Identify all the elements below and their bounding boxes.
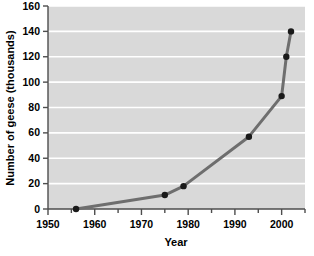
x-axis-tick-label: 1980 [177,218,201,230]
y-axis-tick-label: 0 [34,203,40,215]
data-point-marker [246,133,252,139]
data-point-marker [283,54,289,60]
y-axis-tick-label: 20 [28,177,40,189]
data-point-marker [278,93,284,99]
y-axis-title: Number of geese (thousands) [4,30,16,186]
y-axis-tick-label: 100 [22,76,40,88]
data-point-marker [162,192,168,198]
clipped-caption-below-figure [22,251,292,256]
y-axis-tick-label: 40 [28,152,40,164]
chart-figure: 020406080100120140160 195019601970198019… [0,0,314,256]
y-axis-tick-labels-group: 020406080100120140160 [22,0,40,215]
x-axis-title: Year [164,236,188,248]
data-point-marker [288,28,294,34]
x-axis-tick-labels-group: 195019601970198019902000 [36,218,293,230]
x-axis-tick-label: 1970 [130,218,154,230]
x-axis-tick-label: 1950 [36,218,60,230]
x-axis-tick-label: 1960 [83,218,107,230]
x-axis-ticks-group [48,209,305,215]
y-axis-tick-label: 60 [28,126,40,138]
data-point-marker [73,206,79,212]
y-axis-tick-label: 120 [22,50,40,62]
line-chart-canvas: 020406080100120140160 195019601970198019… [0,0,314,256]
y-axis-tick-label: 160 [22,0,40,12]
y-axis-tick-label: 80 [28,101,40,113]
data-point-marker [180,183,186,189]
x-axis-tick-label: 2000 [270,218,294,230]
y-axis-tick-label: 140 [22,25,40,37]
y-axis-ticks-group [43,6,48,209]
x-axis-tick-label: 1990 [223,218,247,230]
